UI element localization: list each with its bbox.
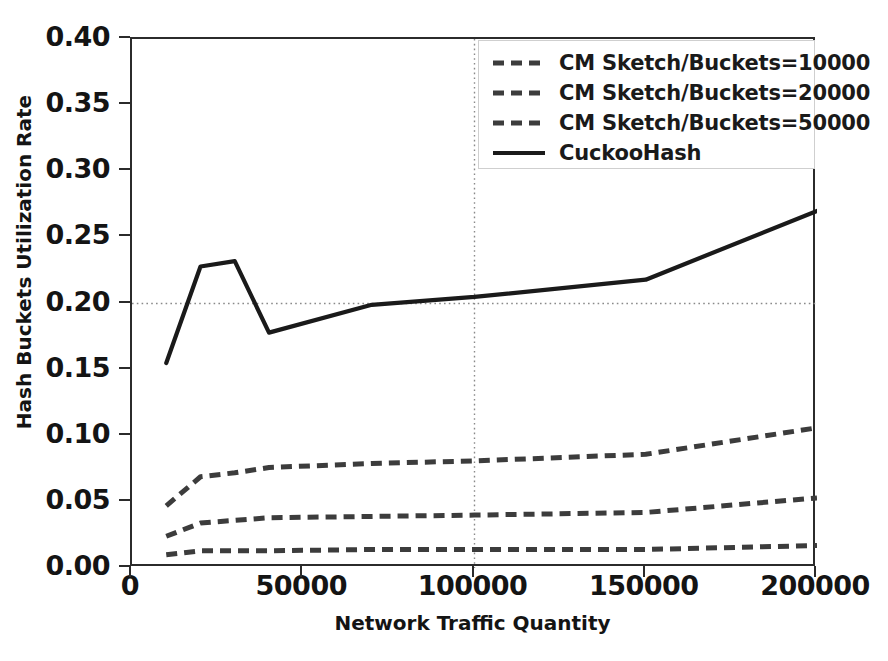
y-tick-mark [119,367,130,369]
legend-item-label: CuckooHash [559,141,701,165]
chart-legend: CM Sketch/Buckets=10000CM Sketch/Buckets… [478,40,815,169]
x-tick-mark [129,566,131,577]
x-tick-mark [814,566,816,577]
series-line-1 [166,428,817,506]
x-tick-mark [472,566,474,577]
y-tick-mark [119,301,130,303]
legend-item-label: CM Sketch/Buckets=50000 [559,111,870,135]
legend-item[interactable]: CM Sketch/Buckets=20000 [479,78,814,108]
legend-item-label: CM Sketch/Buckets=20000 [559,81,870,105]
legend-item[interactable]: CM Sketch/Buckets=10000 [479,48,814,78]
y-tick-mark [119,433,130,435]
legend-item[interactable]: CuckooHash [479,138,814,168]
y-tick-label: 0.00 [14,552,110,579]
legend-line-swatch-icon [492,55,546,71]
y-tick-mark [119,168,130,170]
legend-line-swatch-icon [492,115,546,131]
y-tick-mark [119,234,130,236]
y-tick-mark [119,102,130,104]
chart-figure: 0.000.050.100.150.200.250.300.350.40 Has… [0,0,888,661]
legend-item[interactable]: CM Sketch/Buckets=50000 [479,108,814,138]
y-axis-label: Hash Buckets Utilization Rate [12,2,36,522]
x-tick-mark [643,566,645,577]
y-tick-mark [119,499,130,501]
legend-line-swatch-icon [492,85,546,101]
x-axis-label: Network Traffic Quantity [130,611,815,635]
x-tick-mark [300,566,302,577]
y-tick-mark [119,36,130,38]
legend-item-label: CM Sketch/Buckets=10000 [559,51,870,75]
series-line-3 [166,546,817,555]
series-line-2 [166,498,817,536]
series-line-4 [166,211,817,363]
legend-line-swatch-icon [492,145,546,161]
